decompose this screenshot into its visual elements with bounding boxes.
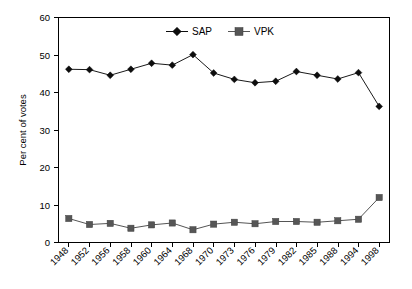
data-point-square (107, 220, 113, 226)
square-marker-icon (235, 28, 243, 36)
data-point-square (148, 222, 154, 228)
data-point-square (211, 221, 217, 227)
data-point-square (169, 220, 175, 226)
data-point-square (66, 215, 72, 221)
data-point-square (376, 194, 382, 200)
data-point-square (190, 227, 196, 233)
y-tick-label: 10 (39, 200, 50, 211)
data-point-square (128, 225, 134, 231)
data-point-square (335, 218, 341, 224)
chart-figure: 60 50 40 30 20 10 0 Per cent of votes (0, 0, 412, 289)
y-tick-label: 30 (39, 125, 50, 136)
data-point-square (314, 219, 320, 225)
y-tick-label: 40 (39, 87, 50, 98)
y-tick-label: 20 (39, 162, 50, 173)
chart-canvas: 60 50 40 30 20 10 0 Per cent of votes (0, 0, 412, 289)
data-point-square (293, 218, 299, 224)
y-tick-label: 0 (45, 237, 50, 248)
y-tick-label: 50 (39, 50, 50, 61)
data-point-square (273, 218, 279, 224)
y-tick-label: 60 (39, 12, 50, 23)
legend-label-sap: SAP (192, 26, 212, 37)
data-point-square (86, 221, 92, 227)
data-point-square (252, 221, 258, 227)
data-point-square (231, 219, 237, 225)
legend-label-vpk: VPK (254, 26, 274, 37)
data-point-square (355, 216, 361, 222)
y-axis-title: Per cent of votes (17, 94, 28, 166)
